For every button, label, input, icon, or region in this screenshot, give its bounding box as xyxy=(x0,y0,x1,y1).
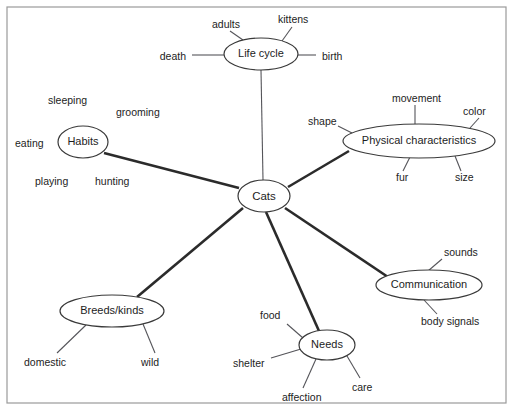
leaf-label-care: care xyxy=(352,381,373,393)
leaf-label-wild: wild xyxy=(140,356,159,368)
leaf-label-grooming: grooming xyxy=(116,106,160,118)
leaf-label-birth: birth xyxy=(322,50,343,62)
leaf-label-shelter: shelter xyxy=(233,357,265,369)
link-cats-life-cycle xyxy=(261,70,263,180)
leaf-link-physical-characteristics-fur xyxy=(403,157,410,171)
link-cats-communication xyxy=(285,208,388,277)
leaf-label-body-signals: body signals xyxy=(421,315,479,327)
leaf-label-movement: movement xyxy=(392,92,441,104)
leaf-label-adults: adults xyxy=(212,18,240,30)
leaf-link-physical-characteristics-shape xyxy=(338,126,352,133)
leaf-link-life-cycle-adults xyxy=(230,31,243,40)
branch-node-label-communication: Communication xyxy=(391,278,467,290)
leaf-label-kittens: kittens xyxy=(278,13,308,25)
leaf-link-communication-body-signals xyxy=(424,300,437,314)
leaf-link-breeds-kinds-wild xyxy=(143,324,155,353)
leaf-label-domestic: domestic xyxy=(24,356,66,368)
leaf-label-hunting: hunting xyxy=(95,175,130,187)
mind-map-diagram: Life cyclePhysical characteristicsHabits… xyxy=(0,0,514,413)
leaf-label-eating: eating xyxy=(15,137,44,149)
leaf-label-color: color xyxy=(463,105,486,117)
leaf-label-sounds: sounds xyxy=(444,246,478,258)
leaf-label-food: food xyxy=(260,309,281,321)
branch-node-label-life-cycle: Life cycle xyxy=(238,47,284,59)
center-node-group: Cats xyxy=(238,180,290,212)
leaf-link-communication-sounds xyxy=(428,259,442,271)
branch-node-label-habits: Habits xyxy=(67,135,99,147)
leaf-link-life-cycle-kittens xyxy=(282,27,292,41)
leaf-link-needs-care xyxy=(347,356,360,378)
leaf-link-needs-food xyxy=(287,324,303,338)
leaf-label-playing: playing xyxy=(35,175,68,187)
branch-node-label-needs: Needs xyxy=(311,338,343,350)
link-cats-breeds xyxy=(137,208,243,297)
mind-map-canvas: Life cyclePhysical characteristicsHabits… xyxy=(0,0,514,413)
leaf-label-shape: shape xyxy=(308,115,337,127)
branch-node-label-physical-characteristics: Physical characteristics xyxy=(362,134,477,146)
leaf-label-size: size xyxy=(455,171,474,183)
center-node-label: Cats xyxy=(252,190,276,202)
branch-node-label-breeds-kinds: Breeds/kinds xyxy=(80,304,144,316)
link-cats-physical xyxy=(288,151,349,187)
leaf-label-sleeping: sleeping xyxy=(48,94,87,106)
leaf-link-physical-characteristics-size xyxy=(455,156,461,171)
leaf-link-needs-affection xyxy=(303,359,316,388)
leaf-link-needs-shelter xyxy=(271,349,301,358)
leaf-label-affection: affection xyxy=(282,391,322,403)
leaf-label-death: death xyxy=(160,50,186,62)
leaf-link-breeds-kinds-domestic xyxy=(57,325,86,353)
leaf-label-fur: fur xyxy=(396,171,409,183)
leaf-link-physical-characteristics-color xyxy=(470,118,479,128)
